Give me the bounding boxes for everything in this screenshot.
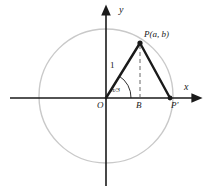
point-b-label: B <box>136 101 142 110</box>
point-p-marker <box>137 40 142 45</box>
origin-label: O <box>97 101 104 110</box>
radius-length-label: 1 <box>110 61 115 70</box>
angle-measure-label: π/3 <box>111 87 120 94</box>
geometry-figure: y x P(a, b) O B P' 1 π/3 <box>0 0 208 191</box>
y-axis-label: y <box>119 5 123 15</box>
angle-arc <box>119 76 131 98</box>
x-axis-label: x <box>184 82 188 92</box>
figure-canvas <box>0 0 208 191</box>
point-pprime-label: P' <box>171 101 178 110</box>
point-p-label: P(a, b) <box>144 30 169 39</box>
